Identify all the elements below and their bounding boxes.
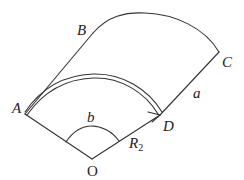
label-a-point: A [11,100,22,116]
label-o-point: O [87,163,98,179]
label-radius-r2: R2 [128,135,143,153]
angle-arc-b [66,126,119,142]
label-d-point: D [162,118,174,134]
label-b-point: B [77,22,86,38]
segment-dc [160,52,219,115]
arc-bc [93,13,219,52]
segment-ab [25,33,93,114]
label-length-a: a [193,85,201,101]
arc-ad-outer [25,74,162,112]
label-radius-r: R [128,135,138,151]
label-angle-b: b [87,109,95,125]
label-radius-subscript: 2 [138,142,143,153]
segment-oa [25,114,92,159]
label-c-point: C [222,54,233,70]
geometry-diagram: A B C D O a b R2 [0,0,244,180]
segment-od [92,115,160,159]
